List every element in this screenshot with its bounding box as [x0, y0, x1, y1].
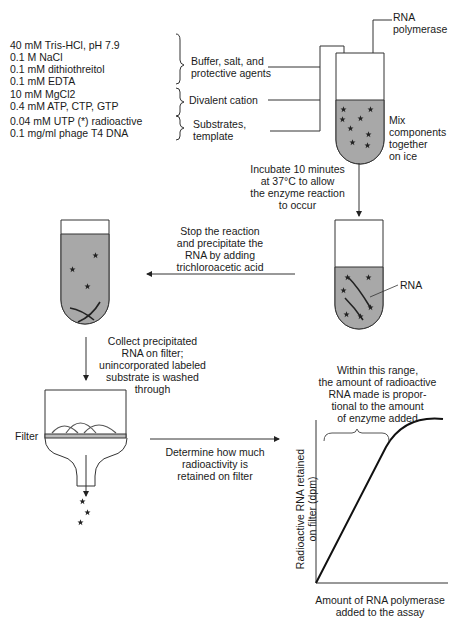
label-mix-4: on ice: [389, 150, 417, 162]
step-collect-4: substrate is washed: [90, 371, 215, 383]
graph-ylabel: Radioactive RNA retained on filter (dpm): [294, 434, 318, 584]
label-cation: Divalent cation: [189, 94, 258, 106]
label-rna: RNA: [400, 279, 422, 291]
graph: [316, 419, 448, 583]
label-rna-polymerase-2: polymerase: [393, 23, 447, 35]
reagent-dna: 0.1 mg/ml phage T4 DNA: [10, 127, 128, 139]
graph-annotation-5: of enzyme added: [290, 412, 465, 424]
filter-funnel: [45, 390, 127, 496]
label-buffer-2: protective agents: [191, 67, 271, 79]
label-mix-3: together: [389, 138, 428, 150]
graph-annotation-1: Within this range,: [290, 364, 465, 376]
linear-range-brace: [324, 429, 389, 441]
label-filter: Filter: [15, 430, 38, 442]
reagent-utp: 0.04 mM UTP (*) radioactive: [10, 115, 142, 127]
step-collect-3: unincorporated labeled: [90, 359, 215, 371]
tube-mix: [336, 53, 384, 164]
reagent-edta: 0.1 mM EDTA: [10, 75, 75, 87]
step-incubate-2: at 37°C to allow: [240, 175, 355, 187]
step-stop-2: and precipitate the: [160, 237, 280, 249]
graph-annotation-2: the amount of radioactive: [290, 376, 465, 388]
graph-xlabel: Amount of RNA polymerase added to the as…: [300, 594, 460, 618]
step-incubate-4: to occur: [240, 199, 355, 211]
reagent-tris: 40 mM Tris-HCl, pH 7.9: [10, 39, 120, 51]
label-substrates-1: Substrates,: [193, 118, 246, 130]
graph-annotation-4: tional to the amount: [290, 400, 465, 412]
reagent-ntp: 0.4 mM ATP, CTP, GTP: [10, 100, 119, 112]
reagent-mgcl2: 10 mM MgCl2: [10, 88, 75, 100]
graph-annotation-3: RNA made is propor-: [290, 388, 465, 400]
step-determine-1: Determine how much: [150, 446, 280, 458]
step-collect-2: RNA on filter;: [90, 347, 215, 359]
step-incubate-1: Incubate 10 minutes: [240, 163, 355, 175]
reagent-nacl: 0.1 M NaCl: [10, 51, 63, 63]
tube-precipitate: [61, 220, 109, 324]
label-rna-polymerase-1: RNA: [393, 11, 415, 23]
curve: [316, 419, 443, 583]
step-stop-3: RNA by adding: [160, 249, 280, 261]
tube-reaction: [335, 220, 398, 329]
step-incubate-3: the enzyme reaction: [240, 187, 355, 199]
y-axis-label: Radioactive RNA retained on filter (dpm): [294, 444, 318, 574]
step-stop-4: trichloroacetic acid: [160, 261, 280, 273]
reagent-dtt: 0.1 mM dithiothreitol: [10, 63, 105, 75]
step-determine-3: retained on filter: [150, 470, 280, 482]
step-collect-5: through: [90, 383, 215, 395]
label-mix-1: Mix: [389, 114, 405, 126]
step-determine-2: radioactivity is: [150, 458, 280, 470]
step-stop-1: Stop the reaction: [160, 225, 280, 237]
step-collect-1: Collect precipitated: [90, 335, 215, 347]
label-buffer-1: Buffer, salt, and: [191, 55, 264, 67]
label-mix-2: components: [389, 126, 446, 138]
reagent-braces: [176, 34, 184, 140]
label-substrates-2: template: [193, 130, 233, 142]
